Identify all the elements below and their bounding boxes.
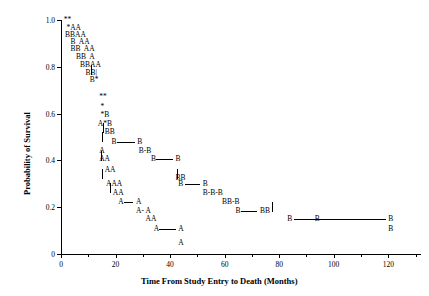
connector-line [294,219,385,220]
x-minor-tick [143,254,144,257]
data-marker: A- A [136,207,151,215]
y-tick-label: 0.4 [29,156,55,165]
x-tick-label: 80 [265,260,293,269]
connector-line [124,202,134,203]
censor-tick [102,132,103,142]
y-tick [57,114,61,115]
data-marker: B-B [139,147,152,155]
data-marker: B [236,207,241,215]
y-tick [57,160,61,161]
data-marker: B [111,138,116,146]
x-tick [116,254,117,258]
x-tick [61,254,62,258]
x-minor-tick [252,254,253,257]
data-marker: BB [260,207,270,215]
connector-line [159,229,175,230]
data-marker: B [151,155,156,163]
connector-line [241,211,257,212]
survival-chart: 00.20.40.60.81.0 020406080100120 ***AABB… [0,0,429,296]
censor-tick [91,65,92,75]
x-tick-label: 60 [211,260,239,269]
x-minor-tick [88,254,89,257]
data-marker: *B [101,111,110,119]
data-marker: B [178,180,183,188]
data-marker: AAA [106,180,122,188]
data-marker: B [137,138,142,146]
y-tick [57,207,61,208]
data-marker: B [287,215,292,223]
x-axis-title: Time From Study Entry to Death (Months) [141,276,297,286]
x-minor-tick [416,254,417,257]
y-tick-label: 0 [29,250,55,259]
x-tick-label: 0 [47,260,75,269]
y-axis-line [61,20,62,254]
y-tick-label: 1.0 [29,16,55,25]
x-minor-tick [306,254,307,257]
data-marker: B [388,225,393,233]
censor-tick [110,183,111,193]
censor-tick [101,151,102,161]
data-marker: AA [113,189,124,197]
y-tick-label: 0.8 [29,63,55,72]
y-tick-label: 0.6 [29,110,55,119]
x-minor-tick [197,254,198,257]
x-tick-label: 20 [102,260,130,269]
censor-tick [272,202,273,212]
x-tick [334,254,335,258]
data-marker: ** [99,93,107,101]
connector-line [156,159,172,160]
x-tick [170,254,171,258]
data-marker: B* [90,76,99,84]
data-marker: A [178,239,183,247]
connector-line [117,142,135,143]
data-marker: BB-B [222,198,240,206]
data-marker: B [176,155,181,163]
y-tick [57,67,61,68]
x-tick-label: 100 [320,260,348,269]
y-tick [57,20,61,21]
x-tick-label: 120 [374,260,402,269]
censor-tick [177,169,178,179]
data-marker: AA [146,215,157,223]
data-marker: AA [105,166,116,174]
y-axis-title: Probability of Survival [22,112,32,195]
data-marker: B [388,215,393,223]
connector-line [185,184,200,185]
x-tick [279,254,280,258]
x-tick [388,254,389,258]
x-tick-label: 40 [156,260,184,269]
y-tick-label: 0.2 [29,203,55,212]
data-marker: B-B-B [203,189,223,197]
x-tick [225,254,226,258]
data-marker: A [178,225,183,233]
x-minor-tick [361,254,362,257]
data-marker: BB [105,128,115,136]
data-marker: A [136,198,141,206]
data-marker: B [203,180,208,188]
censor-tick [102,169,103,179]
censor-tick [103,123,104,133]
